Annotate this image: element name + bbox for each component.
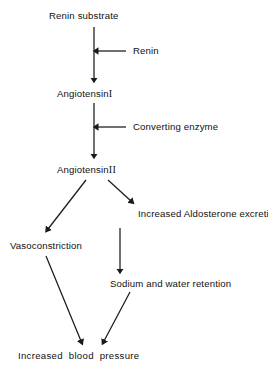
node-angiotensin-1-numeral: I [109, 88, 113, 99]
edge-sodium-to-blood-pressure [104, 292, 130, 341]
node-increased-blood-pressure: Increased blood pressure [18, 350, 139, 362]
flowchart-diagram: Renin substrate Renin AngiotensinI Conve… [0, 0, 268, 376]
node-sodium-and-water-retention: Sodium and water retention [110, 278, 231, 290]
edge-angiotensin2-to-aldosterone [108, 180, 131, 201]
edge-label-converting-enzyme: Converting enzyme [133, 121, 218, 133]
node-angiotensin-1: AngiotensinI [57, 88, 112, 100]
node-vasoconstriction: Vasoconstriction [10, 240, 82, 252]
edge-label-renin: Renin [133, 45, 159, 57]
node-angiotensin-2: AngiotensinII [57, 164, 116, 176]
edge-vasoconstriction-to-blood-pressure [46, 256, 81, 341]
node-renin-substrate: Renin substrate [49, 10, 118, 22]
node-increased-aldosterone-excretion: Increased Aldosterone excretion [138, 208, 268, 220]
node-angiotensin-2-text: Angiotensin [57, 164, 109, 175]
edge-angiotensin2-to-vasoconstriction [48, 180, 86, 229]
node-angiotensin-2-numeral: II [109, 164, 116, 175]
node-angiotensin-1-text: Angiotensin [57, 88, 109, 99]
